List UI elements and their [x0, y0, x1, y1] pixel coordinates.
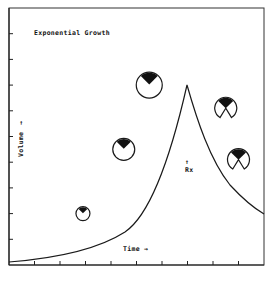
- treatment-arrow: ↑: [185, 158, 189, 166]
- tumor-glyphs: [76, 72, 250, 221]
- x-axis-label: Time: [123, 245, 140, 253]
- tumor-glyph: [228, 149, 250, 169]
- diagram-title: Exponential Growth: [34, 29, 110, 37]
- y-axis-arrow: →: [17, 121, 25, 125]
- exponential-growth-diagram: Exponential Growth Volume → Time → ↑ Rx: [0, 0, 269, 282]
- tumor-glyph: [215, 97, 237, 117]
- growth-curve: [9, 85, 264, 262]
- y-axis-label: Volume: [17, 132, 25, 157]
- y-axis-label-group: Volume →: [17, 121, 25, 157]
- plot-frame: [9, 8, 264, 265]
- x-axis-arrow: →: [144, 245, 148, 253]
- treatment-label: Rx: [185, 166, 193, 174]
- tumor-glyph: [136, 72, 162, 98]
- tumor-glyph: [76, 207, 90, 221]
- y-ticks: [9, 34, 13, 240]
- tumor-glyph: [113, 138, 135, 160]
